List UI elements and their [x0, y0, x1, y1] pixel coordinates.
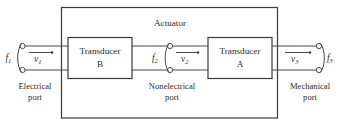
actuator-block-diagram: Actuator f1 v1 Electrical port Transduce…	[0, 0, 345, 126]
nonelectrical-velocity-label: v2	[181, 54, 189, 65]
electrical-port-label-line1: Electrical	[19, 81, 53, 91]
nonelectrical-port-label-line2: port	[165, 92, 179, 102]
mechanical-velocity-arrow-tip	[309, 51, 312, 54]
nonelectrical-force-label: f2	[152, 53, 159, 64]
nonelectrical-port-label-line1: Nonelectrical	[149, 81, 196, 91]
actuator-title: Actuator	[154, 18, 186, 28]
electrical-port-label-line2: port	[28, 92, 42, 102]
mechanical-port-label-line1: Mechanical	[290, 81, 331, 91]
transducer-b-block	[68, 38, 132, 79]
transducer-b-label-line2: B	[97, 59, 103, 69]
transducer-a-label-line1: Transducer	[220, 46, 261, 56]
mechanical-velocity-label: v3	[291, 54, 299, 65]
mechanical-force-label: f3	[327, 53, 334, 64]
nonelectrical-velocity-arrow-tip	[197, 51, 200, 54]
transducer-b-label-line1: Transducer	[80, 46, 121, 56]
electrical-velocity-arrow-tip	[51, 51, 54, 54]
transducer-a-label-line2: A	[237, 59, 244, 69]
electrical-force-label: f1	[6, 53, 12, 64]
electrical-velocity-label: v1	[34, 54, 41, 65]
transducer-a-block	[208, 38, 272, 79]
figure-canvas: Actuator f1 v1 Electrical port Transduce…	[0, 0, 345, 126]
mechanical-port-label-line2: port	[303, 92, 317, 102]
